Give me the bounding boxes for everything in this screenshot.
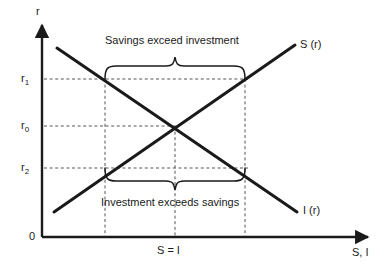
y-tick-r2-sub: 2 bbox=[25, 167, 29, 176]
upper-region-annotation: Savings exceed investment bbox=[105, 35, 239, 46]
horizontal-reference-lines bbox=[44, 79, 248, 168]
y-tick-label-r0: r0 bbox=[21, 120, 29, 134]
x-axis-label: S, I bbox=[352, 247, 369, 258]
y-tick-r0-sub: 0 bbox=[25, 125, 29, 134]
vertical-reference-lines bbox=[105, 79, 245, 236]
y-tick-label-r2: r2 bbox=[21, 162, 29, 176]
loanable-funds-diagram: r S, I 0 r1 r0 r2 S = I S (r) I (r) Savi… bbox=[0, 0, 385, 274]
x-tick-label-equilibrium: S = I bbox=[157, 245, 180, 256]
lower-region-annotation: Investment exceeds savings bbox=[101, 197, 239, 208]
investment-curve-label: I (r) bbox=[303, 205, 320, 216]
upper-brace bbox=[105, 57, 245, 79]
investment-curve bbox=[57, 48, 297, 212]
y-tick-r1-sub: 1 bbox=[25, 78, 29, 87]
y-axis-label: r bbox=[36, 6, 40, 17]
origin-label: 0 bbox=[29, 231, 35, 242]
savings-curve-label: S (r) bbox=[300, 39, 321, 50]
y-tick-label-r1: r1 bbox=[21, 73, 29, 87]
